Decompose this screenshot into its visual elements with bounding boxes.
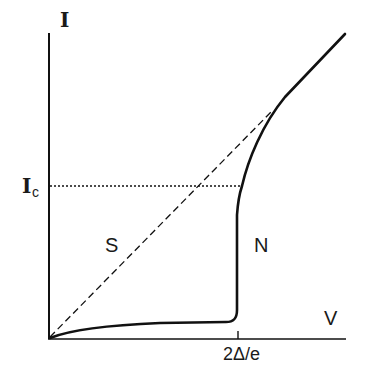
critical-current-label: I	[22, 174, 31, 198]
normal-region-label: N	[254, 234, 268, 256]
y-axis-label: I	[60, 8, 69, 32]
ohmic-dashed-line	[50, 111, 272, 337]
superconducting-region-label: S	[105, 234, 118, 256]
x-axis-label: V	[324, 307, 338, 329]
iv-characteristic-diagram: I V I c 2Δ/e S N	[0, 0, 365, 383]
gap-voltage-label: 2Δ/e	[223, 344, 260, 364]
critical-current-subscript: c	[32, 184, 39, 200]
